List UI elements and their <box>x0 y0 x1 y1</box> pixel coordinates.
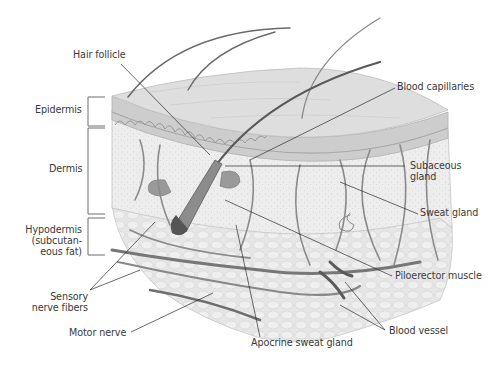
label-hypodermis-line-2: (subcutan- <box>24 235 82 246</box>
label-hypodermis-line-1: Hypodermis <box>24 224 82 235</box>
layer-brackets <box>88 97 105 255</box>
label-epidermis: Epidermis <box>35 104 82 115</box>
label-sensory-line-2: nerve fibers <box>22 302 88 313</box>
label-blood-vessel: Blood vessel <box>389 325 448 336</box>
label-sweat-gland: Sweat gland <box>420 207 478 218</box>
label-apocrine-sweat-gland: Apocrine sweat gland <box>251 337 353 348</box>
epidermis-bracket <box>88 97 105 126</box>
dermis-bracket <box>88 128 105 214</box>
label-blood-capillaries: Blood capillaries <box>397 81 474 92</box>
label-dermis: Dermis <box>49 163 82 174</box>
hypodermis-bracket <box>88 218 105 255</box>
label-motor-nerve: Motor nerve <box>69 327 126 338</box>
label-subaceous-line-1: Subaceous <box>410 160 461 171</box>
label-hypodermis: Hypodermis (subcutan- eous fat) <box>24 224 82 257</box>
label-sensory-line-1: Sensory <box>22 291 88 302</box>
label-hair-follicle: Hair follicle <box>73 49 126 60</box>
label-sensory-nerve-fibers: Sensory nerve fibers <box>22 291 88 313</box>
label-hypodermis-line-3: eous fat) <box>24 246 82 257</box>
label-subaceous-gland: Subaceous gland <box>410 160 461 182</box>
sensory-nerve-fiber-leader-2 <box>90 270 140 290</box>
label-subaceous-line-2: gland <box>410 171 461 182</box>
label-piloerector-muscle: Piloerector muscle <box>395 270 482 281</box>
